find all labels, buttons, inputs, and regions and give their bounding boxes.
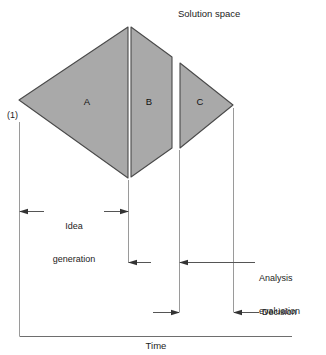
phase-idea-generation-line1: Idea	[38, 221, 110, 232]
phase-analysis-evaluation-label: Analysis evaluation	[259, 251, 300, 339]
diagram-title: Solution space	[178, 8, 240, 19]
phase-analysis-evaluation-line1: Analysis	[259, 273, 300, 284]
shape-a-triangle	[19, 27, 128, 178]
diagram-root: Solution space (1) A B C Idea generation…	[0, 0, 326, 355]
phase-idea-generation-label: Idea generation	[38, 199, 110, 287]
dimension-analysis-evaluation	[128, 260, 255, 265]
time-axis-label: Time	[126, 340, 186, 351]
shape-c-triangle	[180, 63, 233, 148]
start-marker-label: (1)	[7, 110, 18, 121]
shape-b-label: B	[143, 96, 155, 107]
shape-a-label: A	[81, 96, 93, 107]
phase-idea-generation-line2: generation	[38, 254, 110, 265]
shape-c-label: C	[194, 96, 206, 107]
phase-decision-label: Decision	[262, 307, 297, 318]
dimension-decision	[153, 310, 259, 315]
